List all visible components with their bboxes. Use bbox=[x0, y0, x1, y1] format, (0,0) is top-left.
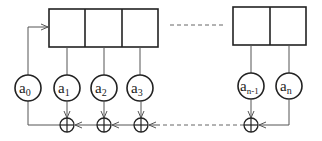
coef-a0: a0 bbox=[15, 75, 41, 101]
coef-an-1: an-1 bbox=[238, 73, 264, 99]
xor-gate-2 bbox=[97, 118, 111, 132]
coef-a2: a2 bbox=[91, 75, 117, 101]
xor-gate-n bbox=[244, 118, 258, 132]
feedback-line bbox=[28, 27, 48, 75]
coef-a1: a1 bbox=[54, 75, 80, 101]
shift-register-left bbox=[49, 9, 158, 47]
coef-a3: a3 bbox=[127, 75, 153, 101]
coef-an: an bbox=[276, 73, 302, 99]
lfsr-diagram: a0 a1 a2 a3 an-1 an bbox=[0, 0, 322, 141]
xor-gate-3 bbox=[134, 118, 148, 132]
feedback-bottom-line bbox=[28, 101, 60, 125]
xor-gate-1 bbox=[60, 118, 74, 132]
shift-register-right bbox=[233, 7, 306, 45]
